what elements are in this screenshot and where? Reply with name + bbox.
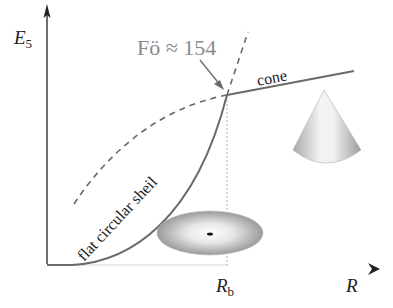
shell-dashed-curve	[227, 32, 248, 95]
shell-curve-label: flat circular sheil	[74, 173, 161, 264]
x-axis	[47, 263, 380, 275]
cone-curve-label: cone	[255, 66, 288, 88]
x-axis-arrow-icon	[368, 263, 380, 275]
rb-tick-label: Rb	[215, 275, 234, 299]
y-axis-label: E5	[13, 27, 32, 51]
disk-center-dot	[207, 233, 213, 236]
y-axis	[44, 4, 51, 264]
x-axis-label: R	[345, 275, 358, 296]
diagram-canvas: E5 R Rb cone flat circular sheil Fö ≈ 15…	[0, 0, 393, 308]
annotation-arrow	[200, 60, 224, 90]
cone-shape	[293, 90, 361, 163]
cone-curve	[227, 71, 354, 95]
arrow-head-icon	[214, 80, 224, 90]
foppl-annotation: Fö ≈ 154	[137, 35, 216, 60]
disk-shape	[157, 211, 263, 255]
